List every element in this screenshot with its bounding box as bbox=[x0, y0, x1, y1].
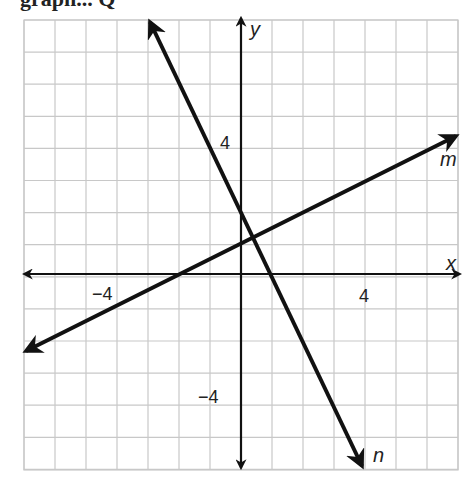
line-n-label: n bbox=[373, 444, 384, 466]
x-tick-pos4: 4 bbox=[359, 286, 369, 306]
y-axis-label: y bbox=[248, 18, 261, 40]
x-axis-label: x bbox=[445, 252, 457, 274]
y-tick-pos4: 4 bbox=[220, 133, 230, 153]
line-m-label: m bbox=[440, 148, 457, 170]
line-n bbox=[150, 22, 362, 466]
coordinate-plane: y x −4 4 4 −4 m n bbox=[0, 0, 475, 482]
x-tick-neg4: −4 bbox=[92, 284, 113, 304]
y-tick-neg4: −4 bbox=[198, 387, 219, 407]
